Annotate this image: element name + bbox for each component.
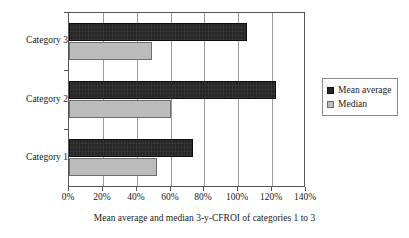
- legend-item-median: Median: [327, 97, 392, 111]
- bar-group: [69, 80, 304, 121]
- value-tick: [271, 187, 272, 191]
- bar-mean-average: [69, 139, 193, 157]
- value-tick: [68, 187, 69, 191]
- legend-item-mean-average: Mean average: [327, 83, 392, 97]
- category-label: Category 2: [4, 94, 68, 105]
- bar-mean-average: [69, 81, 276, 99]
- value-tick: [102, 187, 103, 191]
- legend-swatch-mean-average-icon: [327, 87, 334, 94]
- value-tick: [305, 187, 306, 191]
- category-tick: [64, 12, 68, 13]
- bars-layer: [69, 13, 304, 186]
- legend: Mean average Median: [322, 78, 398, 116]
- legend-swatch-median-icon: [327, 101, 334, 108]
- category-label: Category 1: [4, 152, 68, 163]
- bar-median: [69, 158, 157, 176]
- value-tick: [203, 187, 204, 191]
- category-tick: [64, 70, 68, 71]
- bar-group: [69, 22, 304, 63]
- plot-area: [68, 12, 305, 187]
- bar-mean-average: [69, 23, 247, 41]
- value-tick: [170, 187, 171, 191]
- legend-label-mean-average: Mean average: [338, 85, 392, 96]
- value-tick: [136, 187, 137, 191]
- value-tick: [237, 187, 238, 191]
- bar-chart: Category 1Category 2Category 3 0%20%40%6…: [0, 0, 409, 238]
- value-tick-label: 140%: [285, 192, 325, 203]
- legend-label-median: Median: [338, 99, 367, 110]
- bar-median: [69, 42, 152, 60]
- category-label: Category 3: [4, 35, 68, 46]
- axis-caption: Mean average and median 3-y-CFROI of cat…: [0, 212, 409, 224]
- bar-median: [69, 100, 171, 118]
- category-tick: [64, 129, 68, 130]
- bar-group: [69, 138, 304, 179]
